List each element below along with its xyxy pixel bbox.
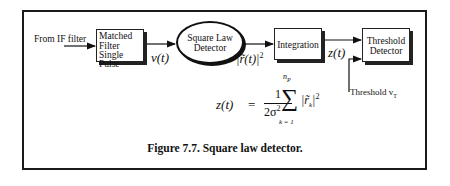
figure-caption: Figure 7.7. Square law detector. bbox=[0, 142, 450, 154]
signal-v-t: v(t) bbox=[151, 50, 169, 66]
matched-filter-line1: Matched bbox=[99, 31, 141, 41]
matched-filter-line3: Single Pulse bbox=[99, 51, 141, 69]
input-label: From IF filter bbox=[34, 34, 86, 44]
formula-term: |r̃k|2 bbox=[301, 92, 319, 109]
sum-upper-limit: nP bbox=[283, 72, 291, 83]
sum-symbol: ∑ bbox=[281, 86, 298, 110]
integration-block: Integration bbox=[274, 28, 322, 60]
formula-lhs: z(t) bbox=[216, 97, 233, 113]
signal-r-squared: |r̃(t)|2 bbox=[236, 51, 264, 67]
threshold-detector-line1: Threshold bbox=[363, 36, 409, 46]
formula-denominator: 2σ2 bbox=[264, 104, 280, 120]
threshold-detector-line2: Detector bbox=[363, 46, 409, 56]
threshold-detector-block: Threshold Detector bbox=[362, 28, 410, 62]
threshold-label: Threshold vT bbox=[350, 87, 397, 99]
formula-equals: = bbox=[248, 97, 255, 113]
matched-filter-block: Matched Filter Single Pulse bbox=[96, 29, 144, 62]
sum-lower-limit: k = 1 bbox=[279, 118, 294, 126]
square-law-line2: Detector bbox=[178, 43, 242, 53]
square-law-line1: Square Law bbox=[178, 33, 242, 43]
integration-label: Integration bbox=[275, 40, 321, 50]
signal-z-t: z(t) bbox=[328, 45, 345, 61]
square-law-detector-block: Square Law Detector bbox=[176, 21, 244, 64]
